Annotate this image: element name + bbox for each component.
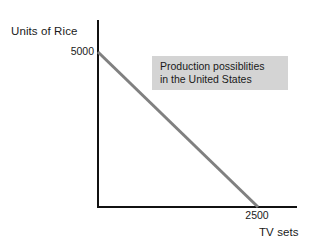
ppf-annotation-box: Production possiblities in the United St… [152, 56, 288, 90]
annotation-line-2: in the United States [160, 73, 288, 86]
annotation-line-1: Production possiblities [160, 60, 288, 73]
y-axis-title: Units of Rice [11, 25, 78, 38]
ppf-chart-figure: Units of Rice 5000 2500 TV sets Producti… [0, 0, 313, 246]
x-axis-tick-label-2500: 2500 [233, 209, 281, 222]
x-axis-title: TV sets [259, 226, 299, 239]
y-axis-tick-label-5000: 5000 [47, 45, 94, 58]
